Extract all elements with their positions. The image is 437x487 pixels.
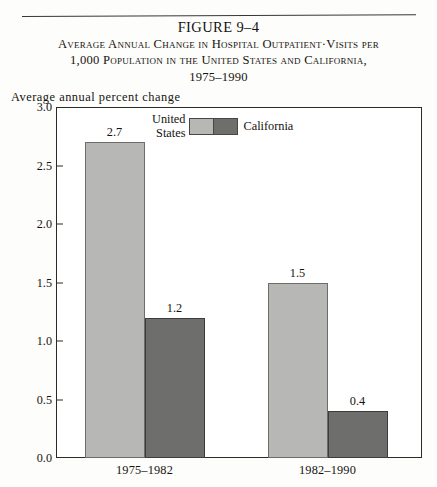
figure-title-line-1: Average Annual Change in Hospital Outpat… bbox=[18, 36, 419, 52]
figure-page: FIGURE 9–4 Average Annual Change in Hosp… bbox=[0, 0, 437, 487]
y-axis-tick-mark bbox=[56, 341, 63, 342]
bars-layer bbox=[56, 107, 422, 458]
bar-california bbox=[328, 411, 388, 458]
y-axis-tick-mark bbox=[56, 282, 63, 283]
chart-legend: United States California bbox=[152, 113, 293, 140]
legend-swatch-united-states bbox=[190, 119, 213, 134]
bar-california bbox=[145, 318, 205, 458]
figure-title-line-2: 1,000 Population in the United States an… bbox=[18, 52, 419, 68]
legend-label-united-states: United States bbox=[152, 113, 189, 140]
bar-value-label: 1.5 bbox=[290, 266, 305, 281]
y-axis-tick-label: 1.5 bbox=[37, 275, 52, 290]
bar-united-states bbox=[85, 142, 145, 458]
y-axis-tick-label: 2.5 bbox=[37, 158, 52, 173]
bar-value-label: 1.2 bbox=[167, 301, 182, 316]
legend-swatches bbox=[189, 118, 238, 135]
bar-value-label: 2.7 bbox=[107, 125, 122, 140]
header-rule bbox=[22, 14, 416, 17]
legend-label-california: California bbox=[238, 119, 293, 134]
y-axis-tick-mark bbox=[56, 224, 63, 225]
y-axis-tick-label: 3.0 bbox=[37, 100, 52, 115]
bar-united-states bbox=[268, 283, 328, 459]
x-axis-category-label: 1975–1982 bbox=[116, 463, 173, 478]
legend-label-united-states-line2: States bbox=[152, 127, 185, 141]
y-axis-tick-labels: 3.02.52.01.51.00.50.0 bbox=[14, 107, 52, 458]
y-axis-tick-label: 0.5 bbox=[37, 392, 52, 407]
y-axis-tick-label: 1.0 bbox=[37, 334, 52, 349]
y-axis-tick-mark bbox=[56, 399, 63, 400]
x-axis-category-label: 1982–1990 bbox=[299, 463, 356, 478]
y-axis-tick-label: 2.0 bbox=[37, 217, 52, 232]
figure-number: FIGURE 9–4 bbox=[0, 19, 437, 36]
bar-value-label: 0.4 bbox=[350, 394, 365, 409]
legend-label-united-states-line1: United bbox=[152, 113, 185, 127]
y-axis-tick-label: 0.0 bbox=[37, 451, 52, 466]
y-axis-tick-mark bbox=[56, 165, 63, 166]
figure-title-line-3: 1975–1990 bbox=[18, 69, 419, 85]
figure-title: Average Annual Change in Hospital Outpat… bbox=[18, 36, 419, 85]
legend-swatch-california bbox=[213, 119, 237, 134]
